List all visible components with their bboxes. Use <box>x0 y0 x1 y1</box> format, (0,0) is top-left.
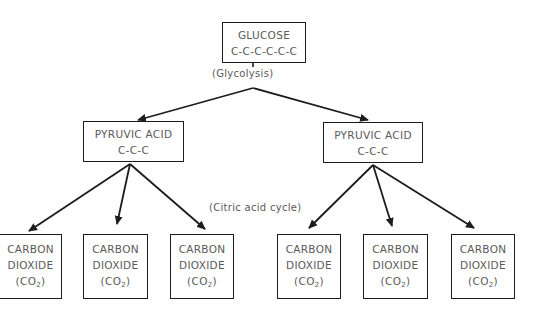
co2-formula: (CO2) <box>468 273 498 293</box>
co2-line1: CARBON <box>372 241 419 257</box>
glucose-formula: C-C-C-C-C-C <box>231 43 297 59</box>
pyruvic-name: PYRUVIC ACID <box>95 126 173 142</box>
co2-line1: CARBON <box>460 241 507 257</box>
pyruvic-name: PYRUVIC ACID <box>334 127 412 143</box>
glucose-box: GLUCOSE C-C-C-C-C-C <box>222 22 306 63</box>
arrow-left-co2-2 <box>117 164 130 224</box>
co2-formula: (CO2) <box>381 273 411 293</box>
co2-line2: DIOXIDE <box>93 257 139 273</box>
co2-line2: DIOXIDE <box>460 257 506 273</box>
co2-line2: DIOXIDE <box>8 257 54 273</box>
co2-line2: DIOXIDE <box>373 257 419 273</box>
glucose-metabolism-diagram: GLUCOSE C-C-C-C-C-C (Glycolysis) PYRUVIC… <box>0 0 537 316</box>
arrow-right-co2-1 <box>309 165 373 228</box>
pyruvic-formula: C-C-C <box>357 143 388 159</box>
co2-formula: (CO2) <box>16 273 46 293</box>
co2-line1: CARBON <box>179 241 226 257</box>
glucose-name: GLUCOSE <box>238 27 290 43</box>
co2-line1: CARBON <box>286 241 333 257</box>
carbon-dioxide-box-6: CARBON DIOXIDE (CO2) <box>451 234 515 299</box>
citric-acid-cycle-label: (Citric acid cycle) <box>209 202 302 213</box>
carbon-dioxide-box-3: CARBON DIOXIDE (CO2) <box>170 234 234 299</box>
arrow-right-co2-3 <box>373 165 474 228</box>
co2-formula: (CO2) <box>187 273 217 293</box>
glycolysis-label: (Glycolysis) <box>212 68 273 79</box>
carbon-dioxide-box-4: CARBON DIOXIDE (CO2) <box>277 234 341 299</box>
arrow-glycolysis-left <box>138 88 253 120</box>
carbon-dioxide-box-2: CARBON DIOXIDE (CO2) <box>83 234 148 299</box>
co2-formula: (CO2) <box>294 273 324 293</box>
carbon-dioxide-box-1: CARBON DIOXIDE (CO2) <box>0 234 62 299</box>
pyruvic-formula: C-C-C <box>118 142 149 158</box>
arrow-left-co2-3 <box>130 164 205 229</box>
pyruvic-acid-box-right: PYRUVIC ACID C-C-C <box>323 122 423 163</box>
carbon-dioxide-box-5: CARBON DIOXIDE (CO2) <box>363 234 428 299</box>
co2-line2: DIOXIDE <box>179 257 225 273</box>
co2-formula: (CO2) <box>101 273 131 293</box>
co2-line2: DIOXIDE <box>286 257 332 273</box>
co2-line1: CARBON <box>7 241 54 257</box>
co2-line1: CARBON <box>92 241 139 257</box>
arrow-glycolysis-right <box>253 88 368 120</box>
pyruvic-acid-box-left: PYRUVIC ACID C-C-C <box>83 121 184 162</box>
arrow-left-co2-1 <box>29 164 130 231</box>
